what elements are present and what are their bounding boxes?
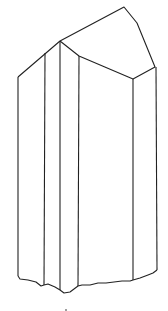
crystal-drawing (0, 0, 168, 311)
crystal-top-outline (18, 7, 155, 79)
edge-right (156, 67, 157, 270)
edge-2 (44, 53, 45, 285)
crystal-bottom-edge (18, 270, 157, 293)
edge-4 (78, 56, 79, 286)
